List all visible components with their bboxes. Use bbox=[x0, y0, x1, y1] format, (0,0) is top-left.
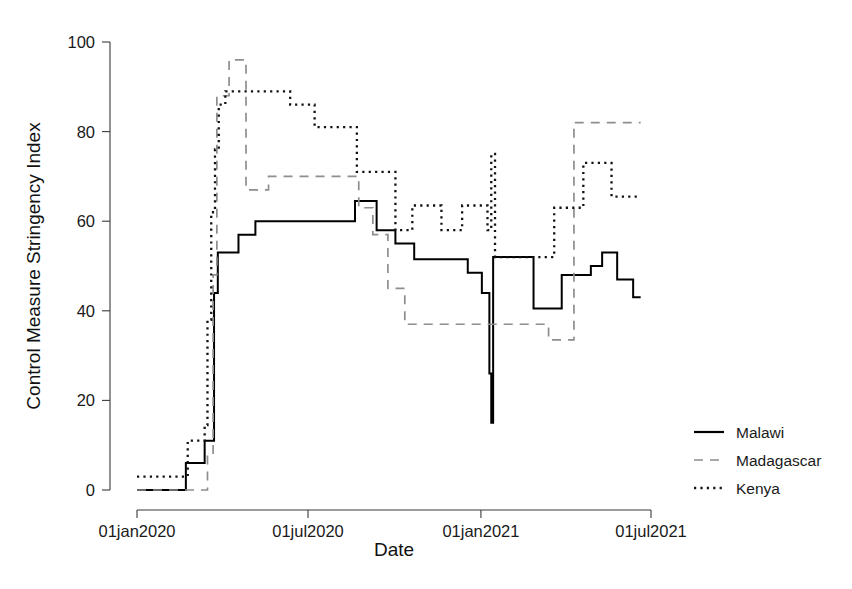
x-axis-title: Date bbox=[374, 539, 414, 560]
x-tick-label: 01jan2021 bbox=[442, 522, 519, 540]
legend-label: Kenya bbox=[736, 480, 780, 497]
y-axis-title: Control Measure Stringency Index bbox=[23, 122, 44, 410]
y-tick-label: 100 bbox=[67, 33, 95, 51]
y-tick-marks bbox=[102, 42, 110, 490]
legend-item: Madagascar bbox=[694, 452, 821, 469]
y-tick-label: 20 bbox=[77, 391, 95, 409]
legend-label: Malawi bbox=[736, 424, 784, 441]
y-axis: 020406080100 bbox=[67, 33, 110, 499]
y-tick-label: 80 bbox=[77, 123, 95, 141]
x-tick-label: 01jul2020 bbox=[272, 522, 344, 540]
stringency-index-chart: 020406080100 01jan202001jul202001jan2021… bbox=[0, 0, 852, 589]
y-tick-label: 0 bbox=[86, 481, 95, 499]
x-tick-label: 01jan2020 bbox=[98, 522, 175, 540]
legend-label: Madagascar bbox=[736, 452, 821, 469]
data-series-group bbox=[137, 60, 641, 490]
x-tick-marks bbox=[137, 510, 651, 518]
x-tick-labels: 01jan202001jul202001jan202101jul2021 bbox=[98, 522, 686, 540]
plot-area: 020406080100 01jan202001jul202001jan2021… bbox=[0, 0, 852, 589]
y-tick-labels: 020406080100 bbox=[67, 33, 95, 499]
legend-item: Kenya bbox=[694, 480, 780, 497]
y-tick-label: 60 bbox=[77, 212, 95, 230]
x-tick-label: 01jul2021 bbox=[615, 522, 687, 540]
legend-item: Malawi bbox=[694, 424, 784, 441]
y-tick-label: 40 bbox=[77, 302, 95, 320]
x-axis: 01jan202001jul202001jan202101jul2021 bbox=[98, 510, 686, 540]
legend: MalawiMadagascarKenya bbox=[694, 424, 821, 497]
